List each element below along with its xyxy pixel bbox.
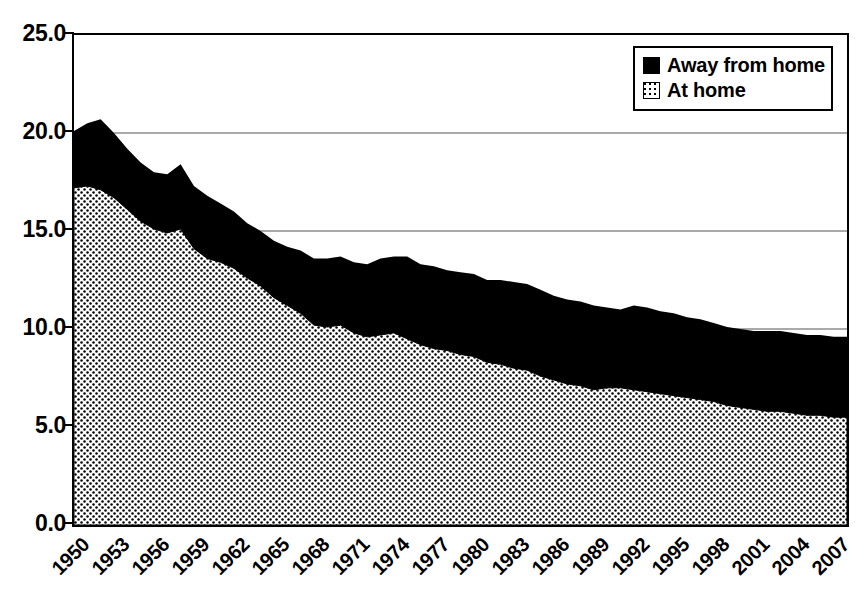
x-axis-tick-label: 1962 xyxy=(201,533,254,586)
y-axis-tick-label: 0.0 xyxy=(4,512,66,535)
x-axis-tick-label: 1956 xyxy=(121,533,174,586)
chart-container: 25.020.015.010.05.00.0 19501953195619591… xyxy=(0,0,867,605)
x-axis-tick-label: 1998 xyxy=(681,533,734,586)
x-axis-tick-label: 1974 xyxy=(361,533,414,586)
x-axis-tick-label: 1959 xyxy=(161,533,214,586)
x-axis-tick-label: 2004 xyxy=(761,533,814,586)
x-axis-tick-label: 2007 xyxy=(801,533,854,586)
legend-label-away-from-home: Away from home xyxy=(667,55,825,75)
y-axis-tick-label: 5.0 xyxy=(4,414,66,437)
legend-item-away-from-home[interactable]: Away from home xyxy=(643,53,825,77)
y-axis: 25.020.015.010.05.00.0 xyxy=(0,0,66,605)
legend-label-at-home: At home xyxy=(667,80,746,100)
x-axis-tick-label: 1971 xyxy=(321,533,374,586)
x-axis-tick-label: 1968 xyxy=(281,533,334,586)
legend-item-at-home[interactable]: At home xyxy=(643,78,825,102)
x-axis-tick-label: 1989 xyxy=(561,533,614,586)
x-axis-tick-label: 1983 xyxy=(481,533,534,586)
x-axis-tick-label: 1986 xyxy=(521,533,574,586)
legend: Away from home At home xyxy=(633,46,833,111)
y-axis-tick-label: 20.0 xyxy=(4,120,66,143)
x-axis-tick-label: 1977 xyxy=(401,533,454,586)
legend-swatch-dotted-icon xyxy=(643,82,660,99)
x-axis-tick-label: 1980 xyxy=(441,533,494,586)
y-axis-tick-label: 25.0 xyxy=(4,22,66,45)
x-axis-tick-label: 1965 xyxy=(241,533,294,586)
y-axis-tick-label: 10.0 xyxy=(4,316,66,339)
x-axis-tick-label: 1995 xyxy=(641,533,694,586)
x-axis-tick-label: 2001 xyxy=(721,533,774,586)
y-axis-tick-label: 15.0 xyxy=(4,218,66,241)
x-axis-tick-label: 1953 xyxy=(81,533,134,586)
legend-swatch-solid-icon xyxy=(643,57,660,74)
x-axis-tick-label: 1992 xyxy=(601,533,654,586)
